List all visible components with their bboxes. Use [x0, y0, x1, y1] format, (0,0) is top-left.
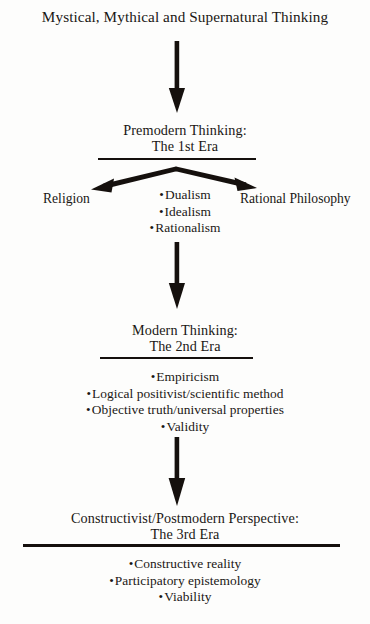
era3-heading: Constructivist/Postmodern Perspective: T… [0, 511, 370, 543]
era2-heading-line1: Modern Thinking: [0, 323, 370, 339]
era3-bullet-list: Constructive reality Participatory epist… [0, 556, 370, 606]
era2-heading-line2: The 2nd Era [0, 339, 370, 355]
era1-bullet-list: Dualism Idealism Rationalism [0, 187, 370, 237]
list-item: Logical positivist/scientific method [0, 386, 370, 403]
list-item: Constructive reality [0, 556, 370, 573]
era2-bullet-list: Empiricism Logical positivist/scientific… [0, 369, 370, 435]
era1-heading: Premodern Thinking: The 1st Era [0, 123, 370, 155]
arrow-era1-to-era2 [169, 242, 185, 309]
list-item: Rationalism [0, 220, 370, 237]
list-item: Participatory epistemology [0, 573, 370, 590]
era3-heading-line1: Constructivist/Postmodern Perspective: [0, 511, 370, 527]
list-item: Objective truth/universal properties [0, 402, 370, 419]
era1-heading-line2: The 1st Era [0, 139, 370, 155]
era1-heading-line1: Premodern Thinking: [0, 123, 370, 139]
era2-underline [100, 357, 253, 359]
era2-heading: Modern Thinking: The 2nd Era [0, 323, 370, 355]
list-item: Validity [0, 419, 370, 436]
diagram-title: Mystical, Mythical and Supernatural Thin… [0, 8, 370, 25]
era1-underline [98, 158, 256, 160]
list-item: Dualism [0, 187, 370, 204]
era3-underline [23, 544, 340, 547]
diagram-canvas: Mystical, Mythical and Supernatural Thin… [0, 0, 370, 624]
era3-heading-line2: The 3rd Era [0, 527, 370, 543]
list-item: Idealism [0, 204, 370, 221]
diagram-title-text: Mystical, Mythical and Supernatural Thin… [42, 8, 328, 25]
arrow-era2-to-era3 [169, 437, 186, 506]
arrow-title-to-era1 [169, 41, 185, 113]
list-item: Viability [0, 589, 370, 606]
list-item: Empiricism [0, 369, 370, 386]
